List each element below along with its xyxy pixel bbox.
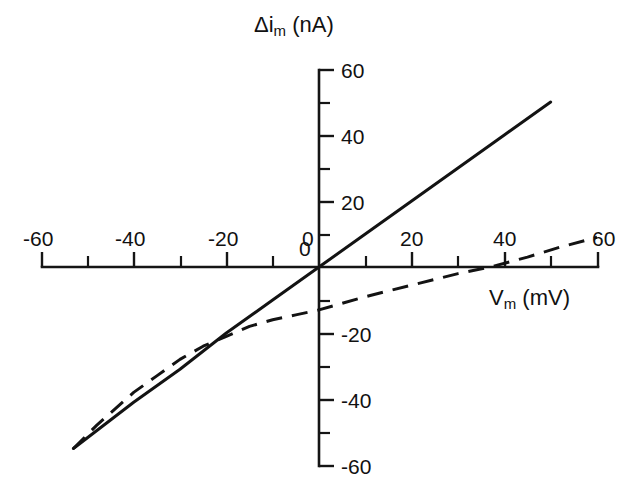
x-tick-label--60: -60 [23,228,53,249]
y-tick-label-0: 0 [299,238,311,259]
x-axis-title-subscript: m [504,295,517,312]
x-tick-label-40: 40 [493,228,516,249]
x-axis-title: Vm (mV) [489,287,570,309]
y-axis-title: Δim (nA) [254,14,334,36]
y-tick-label-20: 20 [341,192,364,213]
x-axis-title-symbol: V [489,285,504,310]
x-tick-label-20: 20 [400,228,423,249]
x-tick-label--40: -40 [115,228,145,249]
y-axis-title-subscript: m [274,22,287,39]
plot-canvas [0,0,638,501]
x-axis-title-unit: (mV) [522,285,570,310]
series-line-dashed [73,237,597,448]
iv-curve-figure: Δim (nA) Vm (mV) -60 -40 -20 0 20 40 60 … [0,0,638,501]
x-tick-label-60: 60 [592,228,615,249]
y-tick-label-60: 60 [341,60,364,81]
y-axis-title-symbol: Δi [254,12,274,37]
y-tick-label-40: 40 [341,126,364,147]
y-axis-title-unit: (nA) [292,12,334,37]
y-tick-label--20: -20 [341,324,371,345]
y-tick-label--60: -60 [341,456,371,477]
y-tick-label--40: -40 [341,390,371,411]
x-tick-label--20: -20 [208,228,238,249]
series-line-solid [73,102,550,449]
